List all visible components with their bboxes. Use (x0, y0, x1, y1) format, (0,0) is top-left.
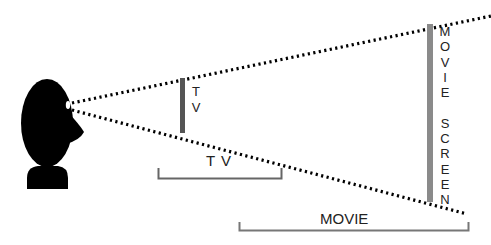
tv-bracket (159, 168, 282, 179)
tv-bracket-label: T V (206, 153, 232, 168)
movie-screen-bar (427, 24, 433, 202)
eye-icon (66, 101, 70, 109)
viewer-head-icon (21, 79, 84, 189)
movie-screen-vertical-label: M O V I E S C R E E N (438, 24, 452, 208)
movie-bracket-label: MOVIE (320, 211, 368, 226)
tv-vertical-label: T V (189, 84, 203, 115)
tv-bar (180, 78, 185, 133)
lower-sight-line (72, 110, 467, 214)
diagram-canvas: T V T V M O V I E S C R E E N MOVIE (0, 0, 491, 245)
